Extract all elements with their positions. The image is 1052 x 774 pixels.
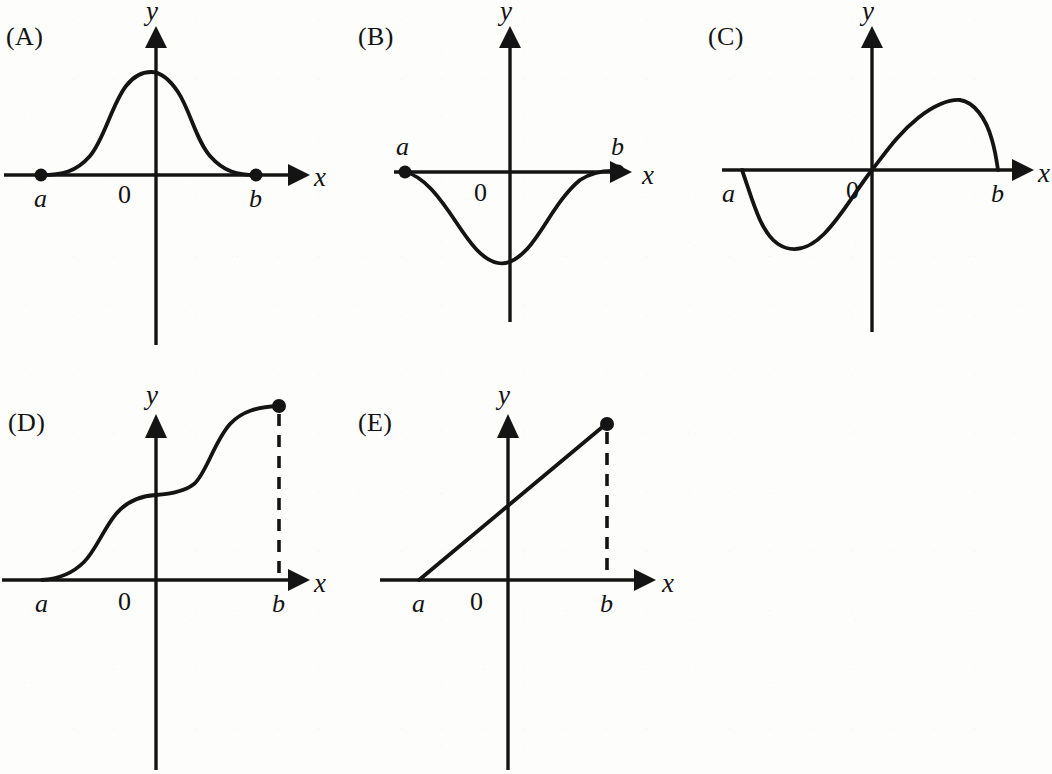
panel-b-point-b [612,165,625,178]
panel-a-x-axis-arrow [288,164,310,186]
panel-a-curve [41,72,256,175]
figure-canvas: (A) x y 0 a b (B) [0,0,1052,774]
panel-c-b-label: b [991,179,1004,208]
panel-b-b-label: b [611,132,624,161]
panel-e-x-axis-label: x [661,568,674,598]
panel-a: (A) x y 0 a b [0,0,340,360]
panel-b-x-axis-label: x [641,160,654,190]
panel-d-graph: x y 0 a b [0,382,340,774]
panel-d-origin-label: 0 [118,587,131,616]
panel-c-x-axis-arrow [1012,159,1034,181]
panel-c-y-axis-label: y [859,0,874,26]
panel-c-curve [742,100,998,249]
panel-d-x-axis-arrow [288,569,310,591]
panel-a-origin-label: 0 [118,180,131,209]
panel-e-label: (E) [358,408,392,438]
panel-c-a-label: a [722,179,735,208]
panel-c-y-axis-arrow [861,26,883,48]
panel-d-y-axis-arrow [145,414,167,438]
panel-b-y-axis-label: y [497,0,512,26]
panel-e-y-axis-arrow [497,414,519,438]
panel-b-graph: x y 0 a b [352,0,700,360]
panel-e-y-axis-label: y [495,380,510,410]
panel-e-b-label: b [600,589,613,618]
panel-d-label: (D) [8,408,45,438]
panel-e-endpoint-dot [600,417,614,431]
panel-e-origin-label: 0 [470,587,483,616]
panel-b-label: (B) [358,22,394,52]
panel-e-graph: x y 0 a b [352,382,692,774]
panel-c-label: (C) [708,22,744,52]
panel-a-b-label: b [249,184,262,213]
panel-d: (D) x y 0 a b [0,382,340,774]
panel-a-graph: x y 0 a b [0,0,340,360]
panel-c-x-axis-label: x [1037,158,1050,188]
panel-e-a-label: a [412,589,425,618]
panel-b-a-label: a [396,132,409,161]
panel-e-line [419,424,606,580]
panel-c-origin-label: 0 [846,176,859,205]
panel-b-y-axis-arrow [499,26,521,48]
panel-c: (C) x y 0 a b [702,0,1052,360]
panel-d-endpoint-dot [272,399,286,413]
panel-c-graph: x y 0 a b [702,0,1052,360]
panel-a-y-axis-label: y [143,0,158,26]
panel-e-x-axis-arrow [634,569,656,591]
panel-a-point-b [250,169,263,182]
panel-b-point-a [399,166,412,179]
panel-b-origin-label: 0 [474,178,487,207]
panel-e: (E) x y 0 a b [352,382,692,774]
panel-a-label: (A) [6,22,43,52]
panel-b: (B) x y 0 a b [352,0,700,360]
panel-a-a-label: a [34,184,47,213]
panel-d-b-label: b [272,589,285,618]
panel-d-a-label: a [35,589,48,618]
panel-d-x-axis-label: x [313,568,326,598]
panel-a-x-axis-label: x [313,162,326,192]
panel-a-y-axis-arrow [145,26,167,48]
panel-a-point-a [35,169,48,182]
panel-d-y-axis-label: y [143,380,158,410]
